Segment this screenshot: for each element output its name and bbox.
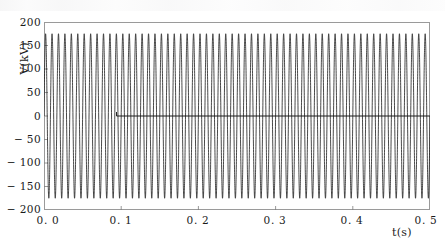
x-tick-0p1: 0. 1 [110, 215, 133, 226]
x-tick-0p0: 0. 0 [37, 215, 60, 226]
x-tick-0p3: 0. 3 [264, 215, 287, 226]
y-axis-label: V(kV) [18, 29, 31, 89]
x-tick-0p2: 0. 2 [187, 215, 210, 226]
x-axis-tick-labels: 0. 0 0. 1 0. 2 0. 3 0. 4 0. 5 [0, 0, 445, 243]
x-tick-0p5: 0. 5 [415, 215, 438, 226]
figure-voltage-waveform: 200 150 100 50 0 − 50 − 100 − 150 − 200 … [0, 0, 445, 243]
x-tick-0p4: 0. 4 [341, 215, 364, 226]
x-axis-label: t(s) [392, 226, 412, 239]
